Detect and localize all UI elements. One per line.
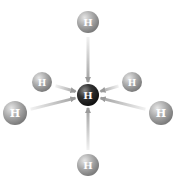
atom-upper-right: H: [122, 72, 142, 92]
atom-top: H: [77, 11, 99, 33]
arrow-upper-left: [55, 86, 75, 92]
atoms-group: HHHHHHH: [3, 11, 173, 176]
atom-left-label: H: [10, 107, 20, 120]
atom-bottom-label: H: [83, 160, 92, 171]
atom-upper-left-label: H: [38, 78, 47, 88]
atom-top-label: H: [83, 17, 92, 28]
atom-upper-right-label: H: [128, 78, 137, 88]
atom-left: H: [3, 101, 27, 125]
arrow-right: [101, 98, 146, 109]
atom-right-label: H: [156, 107, 166, 120]
atom-bottom: H: [77, 154, 99, 176]
arrow-upper-right: [100, 86, 118, 91]
atom-right: H: [149, 101, 173, 125]
hydrogen-interaction-diagram: HHHHHHH: [0, 0, 187, 191]
atom-center: H: [77, 84, 99, 106]
atom-upper-left: H: [32, 72, 52, 92]
arrow-left: [31, 98, 76, 109]
atom-center-label: H: [83, 90, 92, 101]
